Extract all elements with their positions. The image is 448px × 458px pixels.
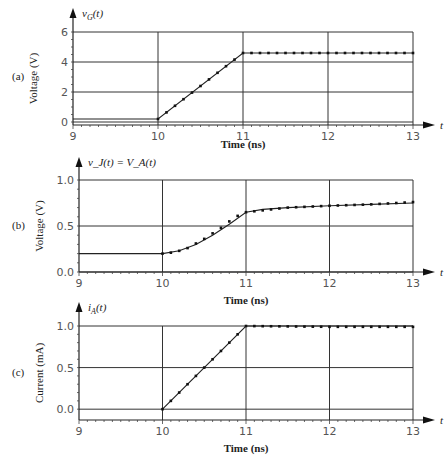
series-marker [157, 118, 160, 121]
series-marker [320, 205, 323, 208]
y-axis-label: Current (mA) [33, 343, 46, 404]
y-tick-label: 4 [61, 56, 68, 69]
x-tick-label: 11 [239, 277, 253, 290]
y-axis-arrow-icon [76, 157, 83, 167]
series-marker [220, 227, 223, 230]
y-tick-label: 1.0 [57, 320, 75, 333]
series-marker [203, 366, 206, 369]
x-tick-label: 10 [156, 425, 170, 438]
series-marker [267, 52, 270, 55]
y-tick-label: 0.0 [57, 403, 75, 416]
x-axis-arrow-icon [423, 417, 435, 424]
series-marker [186, 247, 189, 250]
plot-title: v_J(t) = V_A(t) [88, 156, 156, 169]
series-marker [242, 52, 245, 55]
plot-b: t9101112130.00.51.0v_J(t) = V_A(t)Voltag… [12, 156, 444, 307]
series-marker [378, 203, 381, 206]
series-marker [378, 52, 381, 55]
series-marker [327, 52, 330, 55]
x-axis-label: Time (ns) [224, 442, 269, 455]
x-tick-label: 9 [70, 130, 77, 143]
series-marker [337, 204, 340, 207]
series-marker [395, 202, 398, 205]
series-marker [337, 326, 340, 329]
series-marker [161, 408, 164, 411]
series-marker [344, 52, 347, 55]
x-axis-var-label: t [440, 266, 444, 278]
series-marker [278, 325, 281, 328]
series-marker [335, 52, 338, 55]
y-tick-label: 6 [61, 26, 68, 39]
series-marker [170, 251, 173, 254]
series-marker [216, 72, 219, 75]
series-marker [236, 333, 239, 336]
series-marker [345, 326, 348, 329]
series-marker [403, 326, 406, 329]
series-marker [361, 52, 364, 55]
x-tick-label: 12 [321, 130, 335, 143]
series-marker [318, 52, 321, 55]
series-marker [352, 52, 355, 55]
series-marker [403, 201, 406, 204]
series-marker [236, 215, 239, 218]
y-tick-label: 0.0 [57, 266, 75, 279]
y-tick-label: 0 [61, 116, 68, 129]
series-marker [403, 52, 406, 55]
x-tick-label: 10 [156, 277, 170, 290]
series-marker [395, 326, 398, 329]
series-marker [165, 111, 168, 114]
series-marker [312, 205, 315, 208]
x-axis-label: Time (ns) [224, 294, 269, 307]
x-tick-label: 11 [239, 425, 253, 438]
series-marker [278, 207, 281, 210]
x-tick-label: 13 [406, 277, 420, 290]
series-marker [178, 250, 181, 253]
series-marker [225, 65, 228, 68]
series-marker [370, 326, 373, 329]
series-marker [211, 232, 214, 235]
series-marker [412, 326, 415, 329]
series-marker [284, 52, 287, 55]
series-marker [369, 52, 372, 55]
series-marker [261, 325, 264, 328]
y-axis-arrow-icon [70, 8, 77, 18]
panel-label: (b) [12, 219, 25, 232]
series-marker [211, 358, 214, 361]
x-axis-label: Time (ns) [221, 138, 266, 151]
series-marker [353, 326, 356, 329]
series-marker [191, 91, 194, 94]
x-axis-arrow-icon [423, 122, 435, 129]
series-marker [295, 325, 298, 328]
plot-a: t9101112130246vG(t)Voltage (V)(a)Time (n… [12, 7, 444, 151]
y-tick-label: 0.5 [57, 220, 75, 233]
series-marker [233, 58, 236, 61]
series-marker [395, 52, 398, 55]
series-marker [253, 210, 256, 213]
series-marker [178, 391, 181, 394]
figure: t9101112130246vG(t)Voltage (V)(a)Time (n… [0, 0, 448, 458]
series-marker [195, 375, 198, 378]
series-marker [174, 105, 177, 108]
series-marker [261, 209, 264, 212]
x-axis-var-label: t [440, 119, 444, 131]
y-tick-label: 0.5 [57, 362, 75, 375]
x-axis-var-label: t [440, 414, 444, 426]
plot-c: t9101112130.00.51.0iA(t)Current (mA)(c)T… [12, 301, 444, 455]
series-marker [286, 325, 289, 328]
y-tick-label: 1.0 [57, 174, 75, 187]
series-marker [276, 52, 279, 55]
series-marker [310, 52, 313, 55]
series-marker [362, 326, 365, 329]
series-marker [412, 201, 415, 204]
x-tick-label: 9 [76, 425, 83, 438]
series-marker [208, 78, 211, 81]
series-marker [186, 383, 189, 386]
x-tick-label: 12 [323, 277, 337, 290]
panel-label: (a) [12, 70, 25, 83]
plot-title: vG(t) [82, 7, 103, 22]
series-marker [295, 206, 298, 209]
series-marker [245, 211, 248, 214]
panel-label: (c) [12, 366, 25, 379]
plot-title: iA(t) [88, 301, 107, 316]
x-axis-arrow-icon [423, 269, 435, 276]
